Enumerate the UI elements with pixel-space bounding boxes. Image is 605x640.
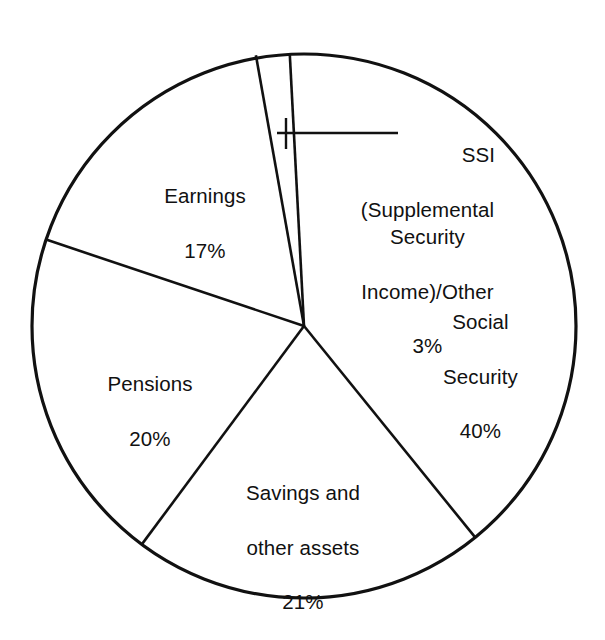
pie-label-ssi-line2: (Supplemental <box>361 198 495 221</box>
pie-label-social-security-value: 40% <box>398 417 563 444</box>
pie-label-savings: Savings and other assets 21% <box>188 452 418 640</box>
pie-label-pensions-value: 20% <box>60 425 240 452</box>
pie-label-savings-line1: Savings and <box>188 479 418 506</box>
pie-chart-figure: SSI (Supplemental Security Income)/Other… <box>0 0 605 640</box>
pie-label-pensions-line1: Pensions <box>60 370 240 397</box>
pie-label-pensions: Pensions 20% <box>60 343 240 479</box>
pie-label-earnings-line1: Earnings <box>110 182 300 209</box>
pie-label-social-security: Social Security 40% <box>398 281 563 472</box>
pie-label-earnings: Earnings 17% <box>110 155 300 291</box>
pie-label-earnings-value: 17% <box>110 237 300 264</box>
pie-label-savings-line2: other assets <box>188 534 418 561</box>
pie-label-ssi-line3: Security <box>300 223 555 250</box>
pie-label-social-security-line1: Social <box>398 308 563 335</box>
pie-label-savings-value: 21% <box>188 588 418 615</box>
pie-label-ssi-line1: SSI <box>300 141 555 168</box>
pie-label-social-security-line2: Security <box>398 363 563 390</box>
